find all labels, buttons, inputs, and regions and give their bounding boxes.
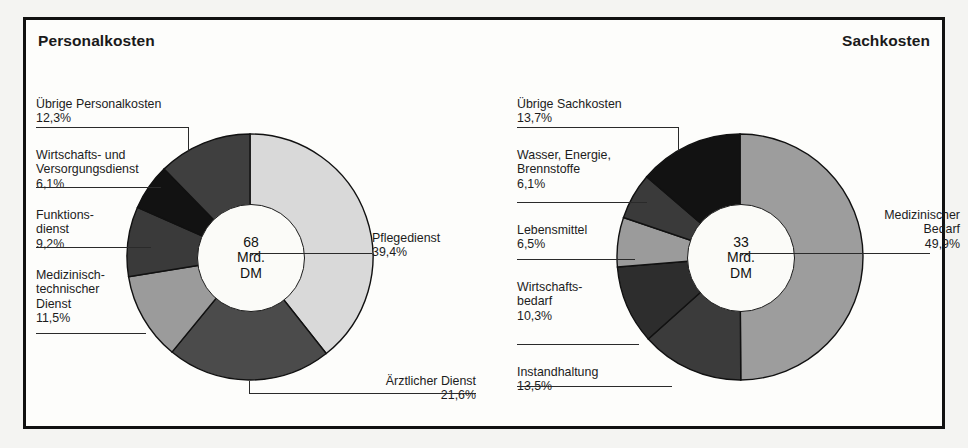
leader-line [36,187,161,188]
panel-title-personalkosten: Personalkosten [38,32,155,50]
label-name: Lebensmittel [517,223,587,237]
label-pflegedienst: Pflegedienst 39,4% [372,216,502,274]
leader-line [249,393,476,394]
label-uebrige-sachkosten: Übrige Sachkosten 13,7% [517,82,682,140]
center-total-sachkosten: 33 Mrd. DM [687,204,795,312]
leader-line [36,247,151,248]
label-pct: 6,1% [36,177,196,192]
label-medizinischer-bedarf: Medizinischer Bedarf 49,9% [860,193,960,266]
leader-line [678,127,679,151]
label-pct: 6,1% [517,177,682,192]
center-value: 68 [243,235,259,251]
label-pct: 39,4% [372,245,502,260]
label-pct: 9,2% [36,237,196,252]
label-pct: 13,7% [517,111,682,126]
label-name: Wasser, Energie, Brennstoffe [517,148,611,177]
panel-title-sachkosten: Sachkosten [842,32,930,50]
label-pct: 21,6% [336,388,476,403]
label-pct: 10,3% [517,309,682,324]
leader-line [36,127,189,128]
label-pct: 12,3% [36,111,196,126]
label-wirtschaftsbedarf: Wirtschafts- bedarf 10,3% [517,265,682,338]
label-medizinisch-technischer-dienst: Medizinisch- technischer Dienst 11,5% [36,253,196,341]
leader-line [250,253,372,254]
leader-line [517,127,679,128]
label-pct: 49,9% [860,237,960,252]
label-name: Medizinisch- technischer Dienst [36,268,105,311]
label-name: Ärztlicher Dienst [386,374,476,388]
leader-line [188,127,189,151]
label-aerztlicher-dienst: Ärztlicher Dienst 21,6% [336,359,476,417]
label-name: Pflegedienst [372,231,440,245]
leader-line [740,253,930,254]
leader-line [517,202,647,203]
label-pct: 6,5% [517,237,682,252]
label-name: Übrige Personalkosten [36,97,161,111]
leader-line [517,386,672,387]
label-name: Wirtschafts- bedarf [517,280,582,309]
label-name: Medizinischer Bedarf [884,208,960,237]
center-currency: DM [730,266,752,282]
label-name: Wirtschafts- und Versorgungsdienst [36,148,139,177]
leader-line [517,344,639,345]
label-name: Übrige Sachkosten [517,97,622,111]
center-total-personalkosten: 68 Mrd. DM [197,204,305,312]
center-value: 33 [733,235,749,251]
figure-root: Personalkosten Sachkosten Pflegedienst 3… [0,0,968,448]
label-wasser-energie-brennstoffe: Wasser, Energie, Brennstoffe 6,1% [517,133,682,206]
label-name: Instandhaltung [517,365,598,379]
label-pct: 11,5% [36,311,196,326]
leader-line [36,333,146,334]
label-lebensmittel: Lebensmittel 6,5% [517,208,682,266]
label-name: Funktions- dienst [36,208,94,237]
label-uebrige-personalkosten: Übrige Personalkosten 12,3% [36,82,196,140]
center-currency: DM [240,266,262,282]
label-instandhaltung: Instandhaltung 13,5% [517,350,682,408]
leader-line [517,259,635,260]
